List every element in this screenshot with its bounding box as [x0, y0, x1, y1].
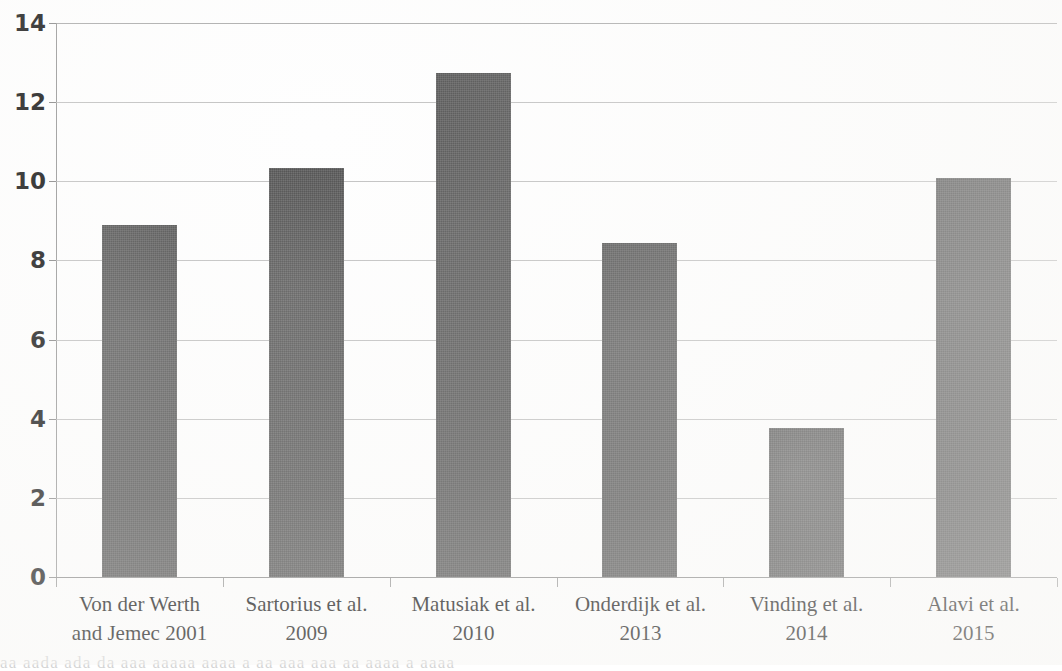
bar: [102, 225, 177, 577]
category-label-line: Sartorius et al.: [223, 590, 390, 619]
y-axis-tick-label: 6: [0, 327, 46, 353]
plot-area: [56, 23, 1057, 577]
gridline-2: [56, 498, 1057, 499]
category-label-line: 2013: [557, 619, 724, 648]
x-axis-category-label: Vinding et al.2014: [723, 590, 890, 648]
x-axis-category-label: Von der Werthand Jemec 2001: [56, 590, 223, 648]
x-axis-category-label: Onderdijk et al.2013: [557, 590, 724, 648]
category-label-line: 2010: [390, 619, 557, 648]
x-axis-tick-mark: [723, 578, 724, 587]
x-axis-category-label: Alavi et al.2015: [890, 590, 1057, 648]
y-axis-tick-label: 8: [0, 247, 46, 273]
x-axis-tick-mark: [1057, 578, 1058, 587]
category-label-line: Onderdijk et al.: [557, 590, 724, 619]
bar: [269, 168, 344, 577]
category-label-line: 2015: [890, 619, 1057, 648]
gridline-10: [56, 181, 1057, 182]
x-axis-category-label: Matusiak et al.2010: [390, 590, 557, 648]
gridline-12: [56, 102, 1057, 103]
category-label-line: Vinding et al.: [723, 590, 890, 619]
bar: [436, 73, 511, 577]
category-label-line: Matusiak et al.: [390, 590, 557, 619]
x-axis-tick-mark: [890, 578, 891, 587]
y-axis-tick-label: 0: [0, 564, 46, 590]
category-label-line: 2014: [723, 619, 890, 648]
category-label-line: 2009: [223, 619, 390, 648]
bar: [602, 243, 677, 577]
bar: [769, 428, 844, 577]
x-axis-labels: Von der Werthand Jemec 2001Sartorius et …: [56, 590, 1057, 662]
y-axis-tick-label: 2: [0, 485, 46, 511]
y-axis-tick-label: 10: [0, 168, 46, 194]
y-axis-tick-label: 14: [0, 10, 46, 36]
x-axis-tick-mark: [56, 578, 57, 587]
gridline-6: [56, 340, 1057, 341]
y-axis-tick-label: 4: [0, 406, 46, 432]
x-axis-tick-mark: [557, 578, 558, 587]
category-label-line: Alavi et al.: [890, 590, 1057, 619]
bar: [936, 178, 1011, 577]
x-axis-category-label: Sartorius et al.2009: [223, 590, 390, 648]
gridline-14: [56, 23, 1057, 24]
gridline-8: [56, 260, 1057, 261]
x-axis-tick-mark: [223, 578, 224, 587]
category-label-line: and Jemec 2001: [56, 619, 223, 648]
gridline-4: [56, 419, 1057, 420]
category-label-line: Von der Werth: [56, 590, 223, 619]
x-axis-tick-mark: [390, 578, 391, 587]
y-axis-tick-label: 12: [0, 89, 46, 115]
